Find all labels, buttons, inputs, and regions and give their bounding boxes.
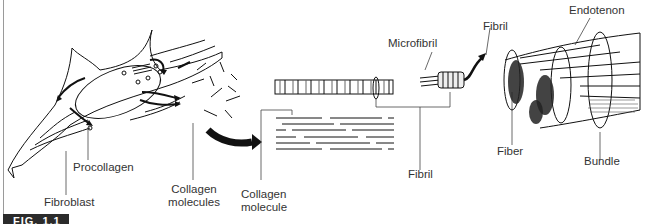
label-fibril-top: Fibril [483,20,508,33]
microfibril-assembly [420,58,482,88]
label-fibril-bottom: Fibril [408,168,433,181]
tendon-hierarchy-diagram: Fibroblast Procollagen Collagen molecule… [0,0,646,224]
staggered-collagen-molecules [276,118,394,149]
large-curved-arrow [208,130,252,143]
collagen-molecules-scatter [192,62,240,118]
label-procollagen: Procollagen [73,161,134,174]
fibroblast-cell-outline [8,30,222,178]
label-fiber: Fiber [497,145,523,158]
diagram-artwork [0,0,646,224]
label-fibroblast: Fibroblast [44,196,95,209]
label-endotenon: Endotenon [569,4,625,17]
bundle-hatching [588,100,638,112]
striated-fibril [275,77,393,99]
label-microfibril: Microfibril [388,37,437,50]
figure-label: FIG. 1.1 [3,214,69,224]
label-bundle: Bundle [584,155,620,168]
fiber-bundle-cylinder [504,32,640,128]
label-collagen-molecules: Collagen molecules [168,183,220,209]
label-collagen-molecule: Collagen molecule [241,188,287,214]
